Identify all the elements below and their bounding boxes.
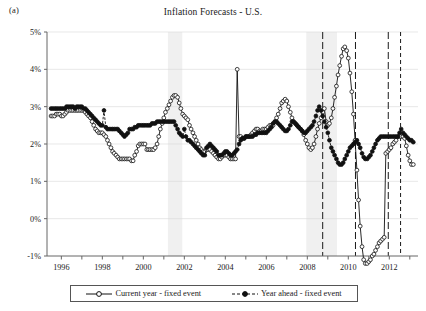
- x-axis-label-2006: 2006: [258, 263, 274, 272]
- data-point: [341, 161, 345, 165]
- data-point: [357, 198, 361, 202]
- inflation-forecasts-chart: 5%4%3%2%1%0%-1% 199619982000200220042006…: [0, 0, 426, 311]
- x-axis-label-2008: 2008: [299, 263, 315, 272]
- legend-item-year-ahead[interactable]: Year ahead - fixed event: [232, 289, 342, 299]
- data-point: [376, 245, 380, 249]
- data-point: [326, 131, 330, 135]
- data-point: [329, 146, 333, 150]
- data-point: [411, 140, 415, 144]
- data-point: [106, 138, 110, 142]
- data-point: [165, 107, 169, 111]
- data-point: [290, 116, 294, 120]
- data-point: [352, 112, 356, 116]
- data-point: [314, 135, 318, 139]
- x-axis-labels-group: 199619982000200220042006200820102012: [53, 263, 397, 272]
- data-point: [287, 127, 291, 131]
- data-point: [312, 142, 316, 146]
- data-point: [411, 163, 415, 167]
- data-point: [109, 146, 113, 150]
- data-point: [374, 142, 378, 146]
- data-point: [203, 153, 207, 157]
- data-point: [336, 73, 340, 77]
- data-point: [404, 144, 408, 148]
- data-point: [184, 135, 188, 139]
- data-point: [389, 146, 393, 150]
- data-point: [155, 142, 159, 146]
- data-point: [158, 127, 162, 131]
- data-point: [126, 131, 130, 135]
- ticks-group: [44, 32, 410, 260]
- data-point: [193, 135, 197, 139]
- data-point: [358, 146, 362, 150]
- data-point: [317, 105, 321, 109]
- data-point: [186, 118, 190, 122]
- y-axis-label-0%: 0%: [30, 215, 41, 224]
- chart-legend: Current year - fixed event Year ahead - …: [70, 285, 358, 302]
- data-point: [346, 56, 350, 60]
- data-point: [179, 107, 183, 111]
- data-point: [157, 135, 161, 139]
- data-point: [369, 153, 373, 157]
- data-point: [358, 224, 362, 228]
- data-point: [215, 150, 219, 154]
- data-point: [312, 120, 316, 124]
- data-point: [340, 54, 344, 58]
- data-point: [374, 249, 378, 253]
- chart-title: Inflation Forecasts - U.S.: [0, 7, 426, 17]
- data-point: [394, 138, 398, 142]
- data-point: [321, 114, 325, 118]
- y-axis-label-2%: 2%: [30, 140, 41, 149]
- data-point: [194, 138, 198, 142]
- data-point: [333, 95, 337, 99]
- data-point: [343, 157, 347, 161]
- data-point: [177, 101, 181, 105]
- data-series-group: [49, 45, 415, 265]
- data-point: [285, 99, 289, 103]
- data-point: [276, 112, 280, 116]
- data-point: [314, 114, 318, 118]
- data-point: [350, 90, 354, 94]
- data-point: [182, 127, 186, 131]
- data-point: [382, 235, 386, 239]
- legend-swatch-year-ahead: [232, 289, 258, 299]
- data-point: [311, 123, 315, 127]
- data-point: [335, 84, 339, 88]
- x-axis-label-1998: 1998: [94, 263, 110, 272]
- data-point: [188, 123, 192, 127]
- data-point: [355, 138, 359, 142]
- data-point: [328, 122, 332, 126]
- data-point: [370, 150, 374, 154]
- data-point: [174, 123, 178, 127]
- data-point: [270, 125, 274, 129]
- data-point: [396, 135, 400, 139]
- data-point: [346, 150, 350, 154]
- legend-item-current-year[interactable]: Current year - fixed event: [86, 289, 201, 299]
- figure-panel: (a) Inflation Forecasts - U.S. 5%4%3%2%1…: [0, 0, 426, 311]
- y-axis-label-5%: 5%: [30, 28, 41, 37]
- x-axis-label-1996: 1996: [53, 263, 69, 272]
- data-point: [275, 116, 279, 120]
- data-point: [408, 159, 412, 163]
- data-point: [324, 125, 328, 129]
- x-axis-label-2004: 2004: [217, 263, 233, 272]
- data-point: [235, 148, 239, 152]
- data-point: [278, 107, 282, 111]
- data-point: [235, 67, 239, 71]
- data-point: [360, 151, 364, 155]
- data-point: [234, 157, 238, 161]
- data-point: [322, 120, 326, 124]
- data-point: [288, 110, 292, 114]
- data-point: [362, 258, 366, 262]
- legend-label-year-ahead: Year ahead - fixed event: [261, 289, 342, 298]
- data-point: [333, 153, 337, 157]
- data-point: [331, 150, 335, 154]
- data-point: [167, 103, 171, 107]
- data-point: [399, 127, 403, 131]
- data-point: [335, 157, 339, 161]
- data-point: [345, 49, 349, 53]
- data-point: [131, 159, 135, 163]
- x-axis-label-2010: 2010: [340, 263, 356, 272]
- data-point: [369, 258, 373, 262]
- y-axis-label-1%: 1%: [30, 177, 41, 186]
- data-point: [331, 107, 335, 111]
